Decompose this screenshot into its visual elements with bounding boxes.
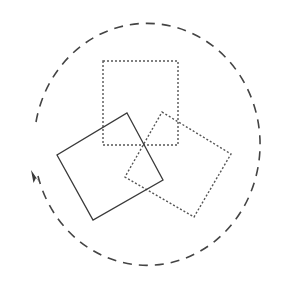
rotated-rectangle-solid xyxy=(57,113,163,220)
original-rectangle xyxy=(103,61,178,145)
rotation-diagram xyxy=(0,0,288,295)
